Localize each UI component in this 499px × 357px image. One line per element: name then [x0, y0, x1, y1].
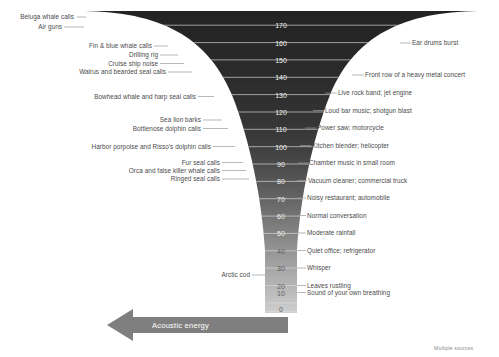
acoustic-energy-funnel-chart: 170 160 150 140 130 120 110 100 90 80 70…: [0, 0, 499, 357]
tick-20: 20: [277, 282, 285, 289]
tick-120: 120: [275, 109, 287, 116]
tick-140: 140: [275, 74, 287, 81]
tick-160: 160: [275, 39, 287, 46]
right-label-power-saw-motorcycle: Power saw; motorcycle: [317, 124, 384, 132]
left-label-bottlenose-dolphin-calls: Bottlenose dolphin calls: [133, 125, 201, 133]
right-label-kitchen-blender-helicopter: Kitchen blender; helicopter: [312, 142, 389, 150]
tick-100: 100: [275, 143, 287, 150]
left-label-walrus-bearded-seal-calls: Walrus and bearded seal calls: [79, 68, 166, 76]
right-label-vacuum-cleaner-commercial-truck: Vacuum cleaner; commercial truck: [308, 177, 407, 185]
tick-40: 40: [277, 247, 285, 254]
right-label-live-rock-band-jet-engine: Live rock band; jet engine: [338, 89, 412, 97]
left-label-ringed-seal-calls: Ringed seal calls: [171, 175, 220, 183]
tick-150: 150: [275, 56, 287, 63]
right-label-quiet-office-refrigerator: Quiet office; refrigerator: [307, 247, 375, 255]
right-label-noisy-restaurant-automobile: Noisy restaurant; automobile: [307, 194, 390, 202]
left-label-fur-seal-calls: Fur seal calls: [182, 159, 220, 167]
funnel-graphic: [0, 0, 499, 357]
tick-170: 170: [275, 22, 287, 29]
tick-10: 10: [277, 289, 285, 296]
left-label-cruise-ship-noise: Cruise ship noise: [108, 60, 158, 68]
tick-80: 80: [277, 178, 285, 185]
left-label-beluga-whale-calls: Beluga whale calls: [20, 13, 74, 21]
right-label-loud-bar-music-shotgun-blast: Loud bar music; shotgun blast: [325, 107, 412, 115]
tick-60: 60: [277, 213, 285, 220]
right-label-front-row-heavy-metal-concert: Front row of a heavy metal concert: [365, 71, 465, 79]
tick-50: 50: [277, 230, 285, 237]
tick-110: 110: [275, 126, 286, 133]
left-label-bowhead-whale-harp-seal-calls: Bowhead whale and harp seal calls: [94, 93, 196, 101]
right-label-sound-of-your-own-breathing: Sound of your own breathing: [307, 289, 390, 297]
figure-root: 170 160 150 140 130 120 110 100 90 80 70…: [0, 0, 499, 357]
left-label-harbor-porpoise-risso-dolphin: Harbor porpoise and Risso's dolphin call…: [92, 143, 211, 151]
source-credit: Multiple sources: [434, 345, 473, 351]
left-label-orca-false-killer-whale-calls: Orca and false killer whale calls: [129, 167, 220, 175]
left-label-arctic-cod: Arctic cod: [221, 271, 250, 279]
tick-70: 70: [277, 195, 285, 202]
tick-130: 130: [275, 91, 287, 98]
right-label-ear-drums-burst: Ear drums burst: [412, 39, 458, 47]
left-label-air-guns: Air guns: [38, 23, 62, 31]
tick-90: 90: [277, 161, 285, 168]
left-label-drilling-rig: Drilling rig: [129, 51, 158, 59]
right-label-chamber-music-small-room: Chamber music in small room: [309, 159, 395, 167]
tick-30: 30: [277, 265, 285, 272]
right-label-whisper: Whisper: [307, 264, 331, 272]
right-label-moderate-rainfall: Moderate rainfall: [307, 229, 355, 237]
acoustic-energy-arrow-label: Acoustic energy: [152, 321, 209, 330]
left-label-sea-lion-barks: Sea lion barks: [160, 116, 201, 124]
right-label-normal-conversation: Normal conversation: [307, 212, 367, 220]
left-label-fin-blue-whale-calls: Fin & blue whale calls: [89, 42, 152, 50]
tick-0: 0: [279, 305, 283, 312]
